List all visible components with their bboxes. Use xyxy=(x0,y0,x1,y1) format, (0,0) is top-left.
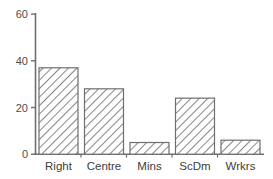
bar-mins[interactable] xyxy=(130,143,169,155)
bar-chart: 0 20 40 60 Right Centre Mins ScDm Wrkrs xyxy=(0,0,273,179)
chart-canvas: 0 20 40 60 Right Centre Mins ScDm Wrkrs xyxy=(0,0,273,179)
x-category-label-wrkrs: Wrkrs xyxy=(226,160,256,172)
y-tick-label-0: 0 xyxy=(22,148,28,160)
x-category-label-right: Right xyxy=(45,160,73,172)
x-category-label-mins: Mins xyxy=(137,160,162,172)
bar-scdm[interactable] xyxy=(176,98,215,154)
y-tick-label-60: 60 xyxy=(16,8,28,20)
y-tick-label-20: 20 xyxy=(16,102,28,114)
bar-centre[interactable] xyxy=(85,89,124,154)
bar-wrkrs[interactable] xyxy=(221,140,260,154)
x-category-label-centre: Centre xyxy=(87,160,122,172)
y-tick-label-40: 40 xyxy=(16,55,28,67)
bar-right[interactable] xyxy=(39,68,78,154)
x-category-label-scdm: ScDm xyxy=(179,160,210,172)
